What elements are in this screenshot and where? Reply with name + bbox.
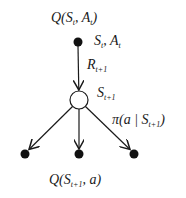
state-action-node-filled <box>74 38 83 47</box>
sa-sub2: t <box>119 41 121 50</box>
backup-diagram: Q(St, At) St, At Rt+1 St+1 π(a | St+1) Q… <box>0 0 186 198</box>
next-state-label: St+1 <box>97 86 116 100</box>
reward-label: Rt+1 <box>87 58 107 72</box>
next-state-sub: t+1 <box>104 93 116 102</box>
sa-mid: , A <box>103 33 118 48</box>
sa-main: S <box>94 33 101 48</box>
action-node-mid <box>75 150 84 159</box>
next-state-main: S <box>97 85 104 100</box>
action-node-left <box>21 150 30 159</box>
q-bottom-sub: t+1 <box>71 180 83 189</box>
policy-sub: t+1 <box>149 120 161 129</box>
reward-main: R <box>87 57 96 72</box>
q-top-main: Q(S <box>51 10 73 25</box>
reward-sub: t+1 <box>96 65 108 74</box>
policy-end: ) <box>160 112 165 127</box>
action-node-right <box>130 150 139 159</box>
q-bottom-end: , a) <box>82 172 101 187</box>
next-state-node-open <box>70 91 88 109</box>
reward-edge-arrow <box>78 46 79 90</box>
q-top-mid: , A <box>75 10 90 25</box>
q-value-current-label: Q(St, At) <box>51 11 97 25</box>
policy-main: π(a | S <box>112 112 149 127</box>
edge-to-left-action-arrow <box>29 107 73 150</box>
q-bottom-main: Q(S <box>49 172 71 187</box>
q-top-end: ) <box>93 10 98 25</box>
state-action-label: St, At <box>94 34 121 48</box>
q-value-next-label: Q(St+1, a) <box>49 173 101 187</box>
policy-label: π(a | St+1) <box>112 113 165 127</box>
diagram-canvas <box>0 0 186 198</box>
